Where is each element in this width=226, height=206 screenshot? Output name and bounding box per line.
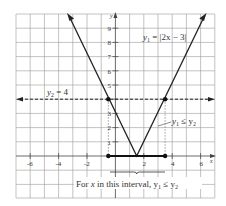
interval-brace [110, 172, 165, 174]
x-tick-label: 4 [171, 160, 175, 168]
y-tick-label: 5 [108, 82, 112, 90]
left-arrow-icon [16, 97, 23, 101]
y-tick-label: 2 [108, 124, 112, 132]
y2-label: y2 = 4 [46, 87, 69, 98]
inequality-pointer [158, 122, 171, 126]
caption: For x in this interval, y1 ≤ y2 [76, 179, 178, 190]
y-tick-label: 9 [108, 25, 112, 33]
y-tick-label: 7 [108, 53, 112, 61]
x-tick-label: -2 [84, 160, 90, 168]
y1-label: y1 = |2x − 3| [142, 32, 186, 43]
inequality-label: y1 ≤ y2 [171, 116, 196, 127]
x-tick-label: -6 [27, 160, 33, 168]
y-tick-label: 6 [108, 68, 112, 76]
x-tick-label: -4 [56, 160, 62, 168]
x-axis-label: x [209, 158, 213, 164]
y-axis-label: y [109, 13, 113, 19]
y-axis-arrow-icon [113, 12, 117, 18]
right-arrow-icon [208, 97, 215, 101]
graph: -6 -4 -2 2 4 6 x 1 2 3 5 6 7 8 9 y [0, 0, 226, 206]
x-tick-labels: -6 -4 -2 2 4 6 x [27, 158, 213, 168]
x-tick-label: 6 [200, 160, 204, 168]
y-tick-label: 8 [108, 39, 112, 47]
x-tick-label: 2 [143, 160, 147, 168]
